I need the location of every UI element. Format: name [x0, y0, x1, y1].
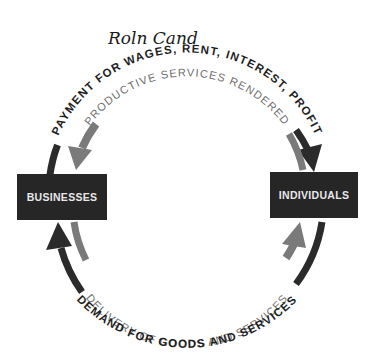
productive-services-arrowhead-icon — [68, 146, 92, 170]
circular-flow-diagram: Roln Cand PAYMENT FOR WAGES, RENT, INTER… — [0, 0, 368, 355]
delivery-arc-shaft — [286, 244, 294, 258]
demand-label: DEMAND FOR GOODS AND SERVICES — [75, 293, 299, 350]
delivery-arc-tail — [74, 222, 86, 260]
demand-flow: DEMAND FOR GOODS AND SERVICES — [46, 222, 322, 350]
payment-arc-tail — [50, 145, 58, 176]
demand-arc-shaft — [61, 248, 82, 292]
delivery-arrowhead-icon — [282, 222, 306, 248]
delivery-flow: DELIVERY OF GOODS AND SERVICES — [74, 222, 306, 350]
businesses-label: BUSINESSES — [27, 191, 98, 203]
businesses-node: BUSINESSES — [17, 174, 107, 220]
demand-arrowhead-icon — [46, 222, 72, 250]
productive-services-arc-shaft — [82, 124, 96, 148]
individuals-node: INDIVIDUALS — [270, 172, 358, 218]
individuals-label: INDIVIDUALS — [279, 189, 349, 201]
